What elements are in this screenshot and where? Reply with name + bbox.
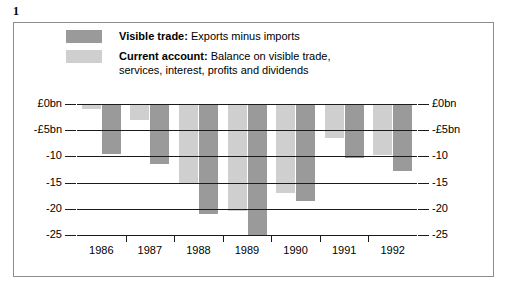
x-tick-1990 <box>271 236 272 242</box>
x-axis-label-1991: 1991 <box>319 244 369 256</box>
bar-visible-trade-1988 <box>199 104 218 214</box>
y-axis-label-left--10: -10 <box>46 150 62 161</box>
y-tick-right--5 <box>418 130 429 131</box>
y-axis-label-right--5: -£5bn <box>432 124 460 135</box>
y-tick-right--15 <box>418 183 429 184</box>
bar-visible-trade-1987 <box>150 104 169 164</box>
chart-legend: Visible trade: Exports minus imports Cur… <box>66 29 466 83</box>
plot-area: £0bn£0bn-£5bn-£5bn-10-10-15-15-20-20-25-… <box>77 104 417 235</box>
y-tick-left--5 <box>65 130 76 131</box>
y-tick-left--20 <box>65 209 76 210</box>
x-tick-1988 <box>174 236 175 242</box>
bar-visible-trade-1990 <box>296 104 315 201</box>
legend-item-visible-trade: Visible trade: Exports minus imports <box>66 29 466 43</box>
bars-layer <box>77 104 417 235</box>
y-axis-label-right--25: -25 <box>432 229 448 240</box>
x-tick-1987 <box>126 236 127 242</box>
y-axis-label-left--20: -20 <box>46 203 62 214</box>
bar-current-account-1987 <box>130 104 149 120</box>
figure-number: 1 <box>13 4 19 18</box>
y-axis-label-right--10: -10 <box>432 150 448 161</box>
y-axis-label-left--25: -25 <box>46 229 62 240</box>
gridline--20 <box>77 209 417 210</box>
bar-current-account-1989 <box>228 104 247 211</box>
x-axis-label-1992: 1992 <box>368 244 418 256</box>
legend-swatch-current-account <box>66 50 102 63</box>
gridline--15 <box>77 183 417 184</box>
legend-label-current-account: Current account: Balance on visible trad… <box>119 49 466 77</box>
chart-frame: Visible trade: Exports minus imports Cur… <box>13 22 494 277</box>
x-axis-label-1989: 1989 <box>222 244 272 256</box>
bar-current-account-1991 <box>325 104 344 138</box>
figure-root: 1 Visible trade: Exports minus imports C… <box>0 0 508 292</box>
gridline--10 <box>77 156 417 157</box>
y-axis-label-right-0: £0bn <box>432 98 456 109</box>
y-tick-left--10 <box>65 156 76 157</box>
y-tick-right--20 <box>418 209 429 210</box>
y-tick-left-0 <box>65 104 76 105</box>
legend-lead-visible-trade: Visible trade: <box>119 30 188 42</box>
y-axis-label-left--15: -15 <box>46 177 62 188</box>
bar-visible-trade-1986 <box>102 104 121 154</box>
y-tick-right--10 <box>418 156 429 157</box>
y-tick-right-0 <box>418 104 429 105</box>
gridline-0 <box>77 104 417 105</box>
legend-desc-current-account-line2: services, interest, profits and dividend… <box>119 63 466 77</box>
y-tick-left--15 <box>65 183 76 184</box>
y-axis-label-right--20: -20 <box>432 203 448 214</box>
legend-desc-current-account: Balance on visible trade, <box>208 50 331 62</box>
legend-label-visible-trade: Visible trade: Exports minus imports <box>119 29 466 43</box>
x-axis-label-1986: 1986 <box>76 244 126 256</box>
y-axis-label-right--15: -15 <box>432 177 448 188</box>
y-tick-left--25 <box>65 235 76 236</box>
bar-current-account-1988 <box>179 104 198 183</box>
gridline--5 <box>77 130 417 131</box>
y-axis-label-left--5: -£5bn <box>34 124 62 135</box>
x-tick-1989 <box>223 236 224 242</box>
y-tick-right--25 <box>418 235 429 236</box>
legend-swatch-visible-trade <box>66 30 102 43</box>
x-axis-label-1987: 1987 <box>125 244 175 256</box>
bar-current-account-1990 <box>276 104 295 193</box>
y-axis-label-left-0: £0bn <box>38 98 62 109</box>
legend-item-current-account: Current account: Balance on visible trad… <box>66 49 466 77</box>
bar-visible-trade-1992 <box>393 104 412 171</box>
legend-lead-current-account: Current account: <box>119 50 208 62</box>
x-tick-1991 <box>320 236 321 242</box>
x-axis-line <box>77 235 417 236</box>
x-axis-label-1988: 1988 <box>173 244 223 256</box>
x-tick-1992 <box>368 236 369 242</box>
x-axis-label-1990: 1990 <box>271 244 321 256</box>
legend-desc-visible-trade: Exports minus imports <box>188 30 300 42</box>
bar-visible-trade-1989 <box>248 104 267 235</box>
